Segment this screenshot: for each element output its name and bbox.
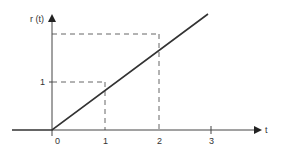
dashed-guides xyxy=(52,34,159,130)
tick-label-x3: 3 xyxy=(209,136,214,146)
tick-marks xyxy=(49,82,211,134)
tick-label-y1: 1 xyxy=(40,77,45,87)
ramp-line xyxy=(12,14,208,130)
tick-label-x0: 0 xyxy=(55,136,60,146)
y-axis-arrow-icon xyxy=(48,14,56,22)
tick-label-x1: 1 xyxy=(103,136,108,146)
ramp-function-chart: r (t) t 0 1 2 3 1 xyxy=(0,0,281,155)
x-axis-label: t xyxy=(265,125,268,135)
y-axis-label: r (t) xyxy=(30,14,44,24)
x-axis-arrow-icon xyxy=(254,126,262,134)
tick-label-x2: 2 xyxy=(157,136,162,146)
